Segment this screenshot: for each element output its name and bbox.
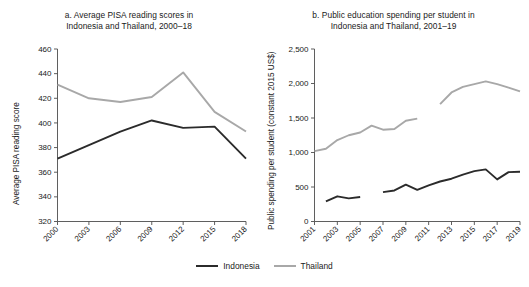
panel-b-x-tick-label: 2001 [298, 224, 317, 243]
panel-a-x-tick-label: 2018 [230, 224, 249, 243]
panel-a-y-tick-label: 320 [38, 217, 52, 226]
panel-b-line-indonesia [383, 169, 520, 192]
panel-a-x-tick-label: 2000 [41, 224, 60, 243]
panel-b-x-tick-label: 2013 [435, 224, 454, 243]
panel-a-y-tick-label: 360 [38, 168, 52, 177]
legend-item-thailand: Thailand [274, 261, 333, 271]
panel-a-x-ticks: 2000200320062009201220152018 [41, 222, 249, 244]
panel-b-x-tick-label: 2011 [413, 224, 432, 243]
panel-a-line-thailand [58, 72, 247, 131]
panel-a-line-indonesia [58, 120, 247, 158]
figure-root: a. Average PISA reading scores in Indone… [0, 0, 529, 287]
panel-a-y-tick-label: 420 [38, 94, 52, 103]
panel-b-x-tick-label: 2003 [321, 224, 340, 243]
panel-b-y-tick-label: 2,000 [288, 79, 309, 88]
panel-a-x-tick-label: 2015 [199, 224, 218, 243]
panel-a-y-ticks: 320340360380400420440460 [38, 45, 57, 227]
legend-swatch-indonesia [196, 265, 218, 267]
panel-b-y-tick-label: 0 [304, 217, 309, 226]
panel-b-plot: 05001,0001,5002,0002,500 200120032005200… [258, 0, 529, 258]
panel-b: b. Public education spending per student… [258, 0, 529, 258]
panel-b-y-ticks: 05001,0001,5002,0002,500 [288, 45, 314, 227]
panel-b-x-tick-label: 2019 [504, 224, 523, 243]
legend-label-thailand: Thailand [301, 261, 333, 271]
panel-a-x-tick-label: 2012 [167, 224, 186, 243]
panel-a-y-tick-label: 460 [38, 45, 52, 54]
legend-swatch-thailand [274, 265, 296, 267]
panel-a-series [58, 72, 247, 158]
panel-b-x-tick-label: 2005 [344, 224, 363, 243]
panel-b-y-tick-label: 1,000 [288, 148, 309, 157]
panel-b-x-tick-label: 2015 [458, 224, 477, 243]
panel-a-axes [58, 49, 247, 222]
panel-b-axes [315, 49, 521, 222]
chart-legend: Indonesia Thailand [0, 261, 529, 271]
panel-b-y-tick-label: 1,500 [288, 114, 309, 123]
panel-a-x-tick-label: 2009 [136, 224, 155, 243]
panel-b-line-thailand [315, 119, 418, 151]
panel-a: a. Average PISA reading scores in Indone… [0, 0, 258, 258]
legend-label-indonesia: Indonesia [223, 261, 259, 271]
panel-a-x-tick-label: 2006 [104, 224, 123, 243]
panel-a-y-tick-label: 440 [38, 69, 52, 78]
panels-container: a. Average PISA reading scores in Indone… [0, 0, 529, 258]
panel-b-x-tick-label: 2007 [367, 224, 386, 243]
panel-b-line-thailand [440, 81, 520, 104]
panel-b-x-tick-label: 2017 [481, 224, 500, 243]
panel-a-y-tick-label: 400 [38, 119, 52, 128]
panel-b-x-ticks: 2001200320052007200920112013201520172019 [298, 222, 523, 244]
panel-b-x-tick-label: 2009 [390, 224, 409, 243]
panel-b-series [315, 81, 521, 201]
legend-item-indonesia: Indonesia [196, 261, 259, 271]
panel-a-plot: 320340360380400420440460 200020032006200… [0, 0, 258, 258]
panel-b-y-tick-label: 500 [295, 183, 309, 192]
panel-b-y-tick-label: 2,500 [288, 45, 309, 54]
panel-a-y-tick-label: 340 [38, 192, 52, 201]
panel-a-y-tick-label: 380 [38, 143, 52, 152]
panel-b-line-indonesia [326, 196, 360, 201]
panel-a-x-tick-label: 2003 [73, 224, 92, 243]
